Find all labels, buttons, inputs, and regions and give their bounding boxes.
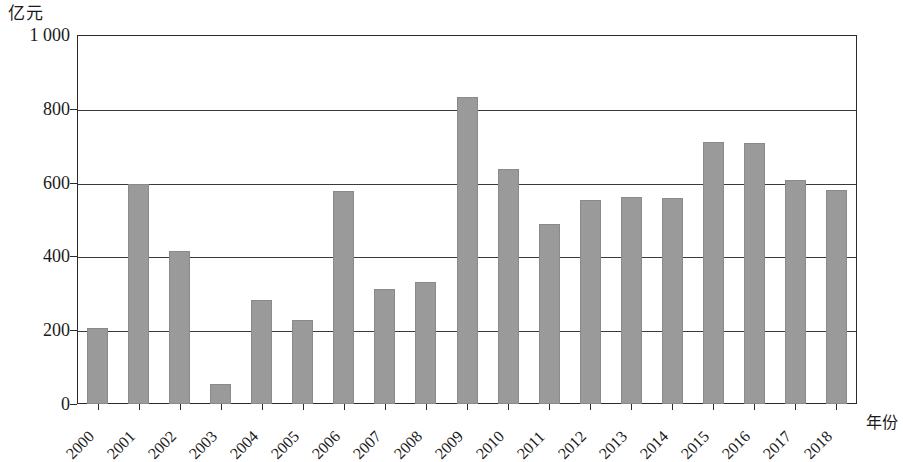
x-tick-label-2004: 2004 xyxy=(226,428,261,462)
gridline-800 xyxy=(78,110,856,111)
y-tick-label-0: 0 xyxy=(0,395,70,413)
y-tick-label-600: 600 xyxy=(0,174,70,192)
x-axis-title: 年份 xyxy=(866,414,898,432)
gridline-200 xyxy=(78,331,856,332)
x-tick-label-2008: 2008 xyxy=(391,428,426,462)
x-tick-label-2016: 2016 xyxy=(719,428,754,462)
x-tick-label-2015: 2015 xyxy=(678,428,713,462)
y-tick-mark-0 xyxy=(70,404,77,405)
x-tick-label-2017: 2017 xyxy=(760,428,795,462)
x-tick-label-2001: 2001 xyxy=(103,428,138,462)
y-tick-label-200: 200 xyxy=(0,321,70,339)
gridline-600 xyxy=(78,184,856,185)
x-tick-label-2000: 2000 xyxy=(62,428,97,462)
y-tick-mark-200 xyxy=(70,330,77,331)
y-tick-mark-400 xyxy=(70,256,77,257)
x-tick-label-2006: 2006 xyxy=(308,428,343,462)
y-tick-label-800: 800 xyxy=(0,100,70,118)
y-axis-unit-label: 亿元 xyxy=(8,4,43,24)
x-tick-label-2005: 2005 xyxy=(267,428,302,462)
x-tick-label-2010: 2010 xyxy=(473,428,508,462)
x-tick-label-2009: 2009 xyxy=(432,428,467,462)
gridline-400 xyxy=(78,257,856,258)
x-tick-label-2012: 2012 xyxy=(555,428,590,462)
x-tick-label-2011: 2011 xyxy=(514,428,548,462)
x-tick-label-2007: 2007 xyxy=(350,428,385,462)
x-tick-label-2003: 2003 xyxy=(185,428,220,462)
y-tick-mark-800 xyxy=(70,109,77,110)
x-tick-label-2002: 2002 xyxy=(144,428,179,462)
x-tick-label-2013: 2013 xyxy=(596,428,631,462)
x-tick-label-2014: 2014 xyxy=(637,428,672,462)
x-tick-label-2018: 2018 xyxy=(801,428,836,462)
y-axis-tick-labels: 02004006008001 000 xyxy=(0,35,70,404)
y-tick-mark-600 xyxy=(70,183,77,184)
x-axis-tick-labels: 2000200120022003200420052006200720082009… xyxy=(77,404,857,447)
y-tick-label-1000: 1 000 xyxy=(0,26,70,44)
y-tick-label-400: 400 xyxy=(0,247,70,265)
plot-area xyxy=(77,35,857,404)
